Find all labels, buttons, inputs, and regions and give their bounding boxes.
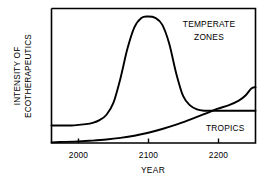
x-tick-label-2000: 2000 bbox=[69, 150, 89, 160]
x-tick-label-2200: 2200 bbox=[209, 150, 229, 160]
annotation-temperate-line1: TEMPERATE bbox=[183, 19, 236, 29]
annotation-tropics-line1: TROPICS bbox=[206, 123, 245, 133]
annotation-temperate-line2: ZONES bbox=[194, 32, 224, 42]
x-axis-title: YEAR bbox=[141, 165, 165, 175]
chart-figure: INTENSITY OF ECOTHERAPEUTICS 2000 2100 2… bbox=[0, 0, 270, 179]
y-axis-title-line2: ECOTHERAPEUTICS bbox=[24, 34, 33, 118]
y-axis-title-line1: INTENSITY OF bbox=[13, 47, 22, 106]
chart-canvas: INTENSITY OF ECOTHERAPEUTICS 2000 2100 2… bbox=[0, 0, 270, 179]
annotation-tropics: TROPICS bbox=[206, 123, 245, 133]
x-tick-label-2100: 2100 bbox=[139, 150, 159, 160]
